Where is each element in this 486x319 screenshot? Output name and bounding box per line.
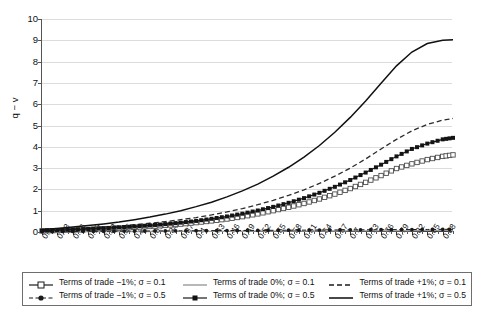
x-axis-tick-label: 0.13 [56,223,72,241]
legend-key-dashed-dot-marker [28,292,54,304]
gridline [42,104,452,105]
gridline [42,83,452,84]
x-axis-tick-label: 0.76 [380,223,396,241]
y-axis-tick-mark [38,189,42,190]
y-axis-tick-mark [38,19,42,20]
legend-row: Terms of trade −1%; σ = 0.1Terms of trad… [28,276,466,289]
y-axis-tick-mark [38,40,42,41]
legend-item[interactable]: Terms of trade 0%; σ = 0.1 [182,276,329,289]
x-axis-tick-label: 0.67 [334,223,350,241]
legend-item[interactable]: Terms of trade +1%; σ = 0.1 [328,276,466,289]
x-axis-tick-label: 0.61 [303,223,319,241]
x-axis-tick-label: 0.34 [164,223,180,241]
x-axis-tick-label: 0.31 [149,223,165,241]
gridline [42,126,452,127]
legend-item[interactable]: Terms of trade −1%; σ = 0.5 [28,289,182,302]
x-axis-tick-label: 0.7 [349,227,362,241]
legend-label: Terms of trade 0%; σ = 0.1 [213,278,315,287]
x-axis-tick-label: 0.16 [72,223,88,241]
y-axis-title: q − v [9,98,20,119]
y-axis-tick-mark [38,104,42,105]
x-axis-tick-label: 0.73 [365,223,381,241]
series-line [42,40,453,230]
x-axis-tick-label: 0.79 [395,223,411,241]
x-axis-tick-label: 0.19 [87,223,103,241]
gridline [42,211,452,212]
x-axis-tick-label: 0.49 [241,223,257,241]
x-axis-tick-label: 0.52 [257,223,273,241]
gridline [42,19,452,20]
legend-key [28,277,54,289]
x-axis-tick-label: 0.4 [195,227,208,241]
x-axis-tick-label: 0.88 [442,223,458,241]
legend-key [28,290,54,302]
series-line [42,138,453,231]
y-axis-tick-mark [38,62,42,63]
x-axis-tick-label: 0.22 [103,223,119,241]
y-axis-tick-mark [38,147,42,148]
x-axis-tick-label: 0.82 [411,223,427,241]
legend-key [328,277,354,289]
y-axis-tick-label: 10 [27,14,38,24]
x-axis-tick-label: 0.58 [288,223,304,241]
legend-label: Terms of trade 0%; σ = 0.5 [213,291,315,300]
series-line [42,155,453,231]
gridline [42,168,452,169]
gridline [42,62,452,63]
gridline [42,40,452,41]
legend-key [182,277,208,289]
x-axis-tick-label: 0.85 [426,223,442,241]
chart-root: q − v 012345678910 0.10.130.160.190.220.… [0,0,486,319]
x-axis-tick-label: 0.37 [180,223,196,241]
x-axis-tick-label: 0.1 [41,227,54,241]
gridline [42,147,452,148]
legend-row: Terms of trade −1%; σ = 0.5Terms of trad… [28,289,466,302]
legend: Terms of trade −1%; σ = 0.1Terms of trad… [22,272,472,306]
y-axis-tick-mark [38,168,42,169]
x-axis-tick-label: 0.46 [226,223,242,241]
series-markers [40,153,455,233]
legend-item[interactable]: Terms of trade 0%; σ = 0.5 [182,289,329,302]
y-axis-tick-mark [38,126,42,127]
series-line [42,118,453,230]
legend-key [182,290,208,302]
y-axis-tick-mark [38,211,42,212]
series-markers [40,136,455,233]
x-axis-tick-label: 0.25 [118,223,134,241]
legend-key [328,290,354,302]
legend-key-solid-thick [328,292,354,304]
x-axis-tick-label: 0.55 [272,223,288,241]
legend-label: Terms of trade −1%; σ = 0.5 [59,291,166,300]
x-axis-tick-label: 0.28 [133,223,149,241]
plot-area: 012345678910 0.10.130.160.190.220.250.28… [41,19,452,232]
x-axis-tick-label: 0.43 [211,223,227,241]
legend-label: Terms of trade +1%; σ = 0.1 [359,278,466,287]
legend-key-solid-filled-square [182,292,208,304]
legend-item[interactable]: Terms of trade +1%; σ = 0.5 [328,289,466,302]
y-axis-tick-mark [38,83,42,84]
legend-label: Terms of trade +1%; σ = 0.5 [359,291,466,300]
x-axis-tick-label: 0.64 [318,223,334,241]
legend-label: Terms of trade −1%; σ = 0.1 [59,278,166,287]
legend-item[interactable]: Terms of trade −1%; σ = 0.1 [28,276,182,289]
gridline [42,189,452,190]
